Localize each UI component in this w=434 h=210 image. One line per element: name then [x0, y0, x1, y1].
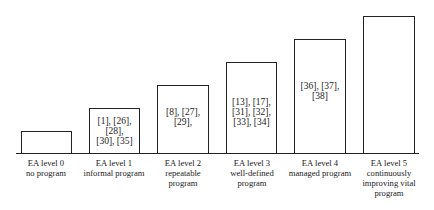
level-subtitle: informal program [74, 168, 154, 178]
ea-maturity-diagram: [1], [26], [28], [30], [35] [8], [27], [… [0, 0, 434, 210]
ref-line: [28], [96, 126, 132, 136]
ref-line: [8], [27], [166, 107, 200, 117]
level-title: EA level 2 [143, 158, 223, 168]
label-level-4: EA level 4 managed program [280, 158, 360, 178]
ref-line: [38] [301, 91, 340, 101]
bar-level-5 [363, 16, 415, 153]
level-subtitle: program [349, 188, 429, 198]
baseline-axis [16, 153, 419, 154]
ref-line: [36], [37], [301, 81, 340, 91]
ref-line: [31], [32], [232, 107, 271, 117]
bar-level-4: [36], [37], [38] [294, 39, 346, 153]
label-level-1: EA level 1 informal program [74, 158, 154, 178]
bar-level-2-refs: [8], [27], [29], [164, 107, 202, 127]
ref-line: [30], [35] [96, 136, 132, 146]
bar-level-0 [21, 131, 72, 153]
level-title: EA level 5 [349, 158, 429, 168]
ref-line: [13], [17], [232, 97, 271, 107]
ref-line: [1], [26], [96, 116, 132, 126]
bar-level-3-refs: [13], [17], [31], [32], [33], [34] [230, 97, 273, 127]
label-level-2: EA level 2 repeatable program [143, 158, 223, 188]
level-subtitle: managed program [280, 168, 360, 178]
level-subtitle: program [212, 178, 292, 188]
ref-line: [33], [34] [232, 117, 271, 127]
bar-level-1-refs: [1], [26], [28], [30], [35] [94, 116, 134, 146]
bar-level-1: [1], [26], [28], [30], [35] [89, 108, 140, 153]
level-title: EA level 1 [74, 158, 154, 168]
bar-level-4-refs: [36], [37], [38] [299, 81, 342, 101]
level-subtitle: continuously [349, 168, 429, 178]
level-subtitle: program [143, 178, 223, 188]
ref-line: [29], [166, 117, 200, 127]
level-subtitle: repeatable [143, 168, 223, 178]
level-title: EA level 4 [280, 158, 360, 168]
level-subtitle: improving vital [349, 178, 429, 188]
bar-level-3: [13], [17], [31], [32], [33], [34] [226, 62, 277, 153]
label-level-5: EA level 5 continuously improving vital … [349, 158, 429, 198]
bar-level-2: [8], [27], [29], [157, 85, 209, 153]
